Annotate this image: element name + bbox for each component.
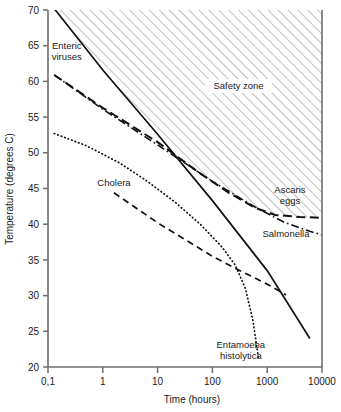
y-axis-title: Temperature (degrees C) <box>4 133 15 245</box>
annotation-text: histolytica <box>220 350 262 361</box>
annotation-text: Safety zone <box>213 80 263 91</box>
x-tick-label: 10 <box>152 376 164 387</box>
safety-zone-label: Safety zone <box>205 79 272 93</box>
annotation-text: eggs <box>280 195 301 206</box>
chart-container: 2025303540455055606570 0,111010010001000… <box>0 0 341 412</box>
y-tick-label: 25 <box>28 326 40 337</box>
annotation-text: Entamoeba <box>217 339 266 350</box>
annotation-text: Enteric <box>52 40 82 51</box>
y-tick-label: 70 <box>28 5 40 16</box>
x-tick-label: 10000 <box>308 376 336 387</box>
y-tick-label: 45 <box>28 183 40 194</box>
y-tick-label: 60 <box>28 76 40 87</box>
x-tick-label: 1000 <box>256 376 279 387</box>
label-entamoeba-histolytica: Entamoebahistolytica <box>217 339 266 361</box>
label-enteric-viruses: Entericviruses <box>52 40 82 62</box>
annotation-text: Salmonella <box>262 228 310 239</box>
x-axis-title: Time (hours) <box>164 394 220 405</box>
y-tick-label: 65 <box>28 40 40 51</box>
y-tick-label: 50 <box>28 147 40 158</box>
y-tick-label: 55 <box>28 112 40 123</box>
x-tick-label: 1 <box>100 376 106 387</box>
y-tick-label: 35 <box>28 255 40 266</box>
survival-curve-chart: 2025303540455055606570 0,111010010001000… <box>0 0 341 412</box>
label-cholera: Cholera <box>97 177 131 188</box>
y-tick-label: 30 <box>28 290 40 301</box>
y-tick-label: 40 <box>28 219 40 230</box>
label-salmonella: Salmonella <box>262 228 310 239</box>
x-tick-label: 0,1 <box>41 376 55 387</box>
annotation-text: Cholera <box>97 177 131 188</box>
annotation-text: Ascaris <box>274 184 305 195</box>
y-tick-label: 20 <box>28 362 40 373</box>
annotation-text: viruses <box>52 51 82 62</box>
x-tick-label: 100 <box>204 376 221 387</box>
